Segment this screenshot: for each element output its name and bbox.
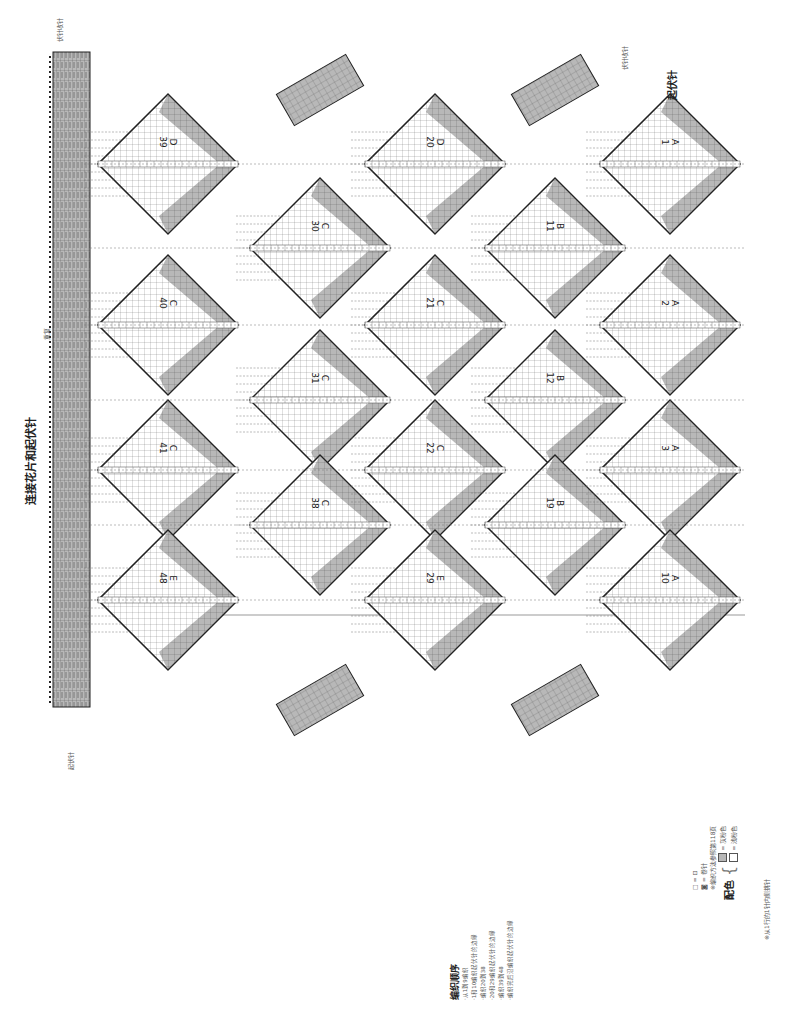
- instruction-line: ·编织39到48: [497, 920, 506, 1000]
- light-color-label: = 浅粉色: [729, 826, 738, 851]
- legend-note-method: ※编织方法参照第118页: [708, 826, 717, 890]
- motif-label: C22: [425, 436, 445, 460]
- cast-on-label: 起伏针: [66, 752, 75, 770]
- motif-label: D39: [158, 130, 178, 154]
- motif-label: C38: [310, 491, 330, 515]
- motif-label: A10: [660, 566, 680, 590]
- motif-label: A1: [660, 130, 680, 154]
- repeat-label: 重复: [42, 328, 51, 340]
- motif-label: A2: [660, 291, 680, 315]
- dark-color-label: = 灰粉色: [718, 826, 727, 851]
- motif-label: B11: [545, 214, 565, 238]
- garter-label-right: 起伏针: [664, 70, 679, 100]
- motif-label: C30: [310, 214, 330, 238]
- instructions-title: 编织顺序: [448, 920, 461, 1000]
- dark-swatch: [718, 853, 727, 862]
- garter-strip: [511, 664, 598, 735]
- motif-layer: [84, 94, 745, 670]
- instruction-line: ·从1到9编织: [461, 920, 470, 1000]
- instruction-line: ·20和29编织起伏针的边缘: [488, 920, 497, 1000]
- garter-strip: [276, 664, 363, 735]
- motif-label: B12: [545, 366, 565, 390]
- instruction-line: ·1和10编织起伏针的边缘: [470, 920, 479, 1000]
- instruction-line: ·编织20到38: [479, 920, 488, 1000]
- garter-strip: [276, 54, 363, 125]
- chart-title: 连接花片和起伏针: [22, 417, 38, 505]
- instruction-line: ·编织完后沿编织起伏针的边缘: [506, 920, 515, 1000]
- motif-label: C41: [158, 436, 178, 460]
- legend-block: □ = ⊡ ◙ = 卷针 ※编织方法参照第118页: [690, 826, 717, 890]
- legend-note-pickup: ※从1行的1针内侧挑针: [762, 879, 771, 940]
- bind-off-label-top: 伏针收针: [55, 18, 64, 42]
- motif-label: C40: [158, 291, 178, 315]
- motif-label: C31: [310, 366, 330, 390]
- motif-label: A3: [660, 436, 680, 460]
- bind-off-label-right: 伏针收针: [620, 46, 629, 70]
- motif-label: E48: [158, 566, 178, 590]
- motif-label: E29: [425, 566, 445, 590]
- color-legend-title: 配色: [721, 880, 736, 900]
- light-swatch: [729, 853, 738, 862]
- instructions-block: 编织顺序 ·从1到9编织 ·1和10编织起伏针的边缘 ·编织20到38 ·20和…: [448, 920, 515, 1000]
- legend-symbol-wrap: ◙ = 卷针: [699, 826, 708, 890]
- motif-label: B19: [545, 491, 565, 515]
- legend-symbol-plain: □ = ⊡: [690, 826, 699, 890]
- color-legend: 配色 { = 灰粉色 = 浅粉色: [718, 826, 738, 900]
- motif-label: D20: [425, 130, 445, 154]
- motif-label: C21: [425, 291, 445, 315]
- garter-strip: [511, 54, 598, 125]
- left-garter-border: [49, 52, 90, 707]
